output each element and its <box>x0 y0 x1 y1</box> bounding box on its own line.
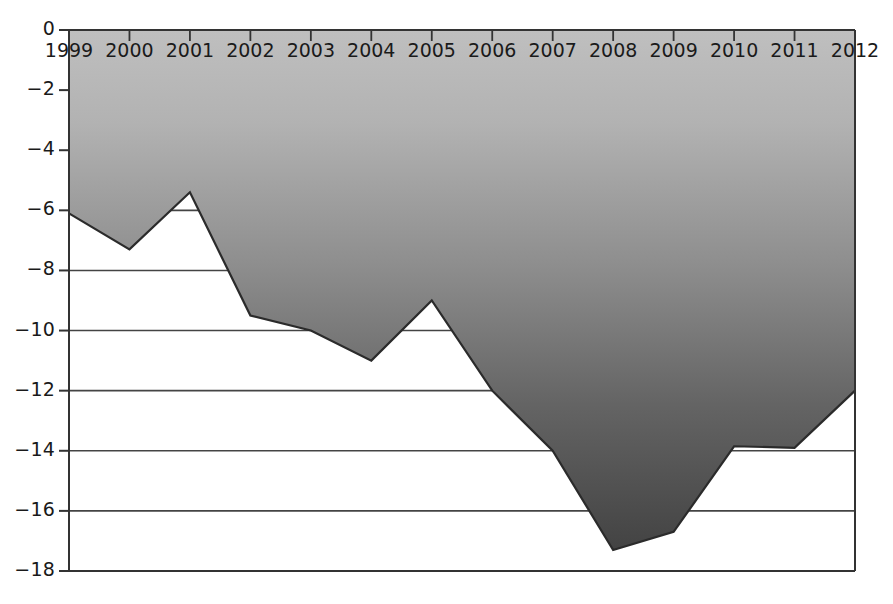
y-axis-tick-label: −10 <box>14 318 55 340</box>
y-axis-tick-label: −16 <box>14 498 55 520</box>
x-axis-tick-label: 2008 <box>583 39 643 61</box>
x-axis-tick-label: 2002 <box>220 39 280 61</box>
x-axis-tick-label: 2006 <box>462 39 522 61</box>
y-axis-tick-label: 0 <box>43 17 55 39</box>
x-axis-tick-label: 2001 <box>160 39 220 61</box>
y-axis-tick-label: −4 <box>27 137 55 159</box>
x-axis-tick-label: 2010 <box>704 39 764 61</box>
x-axis-tick-label: 2011 <box>765 39 825 61</box>
area-chart <box>0 0 893 604</box>
x-axis-tick-label: 2009 <box>644 39 704 61</box>
area-fill <box>69 30 855 550</box>
x-axis-tick-label: 2012 <box>825 39 885 61</box>
y-axis-tick-label: −8 <box>27 257 55 279</box>
chart-container: 0−2−4−6−8−10−12−14−16−18 199920002001200… <box>0 0 893 604</box>
x-axis-tick-label: 2004 <box>341 39 401 61</box>
x-axis-tick-label: 2003 <box>281 39 341 61</box>
y-axis-tick-label: −6 <box>27 197 55 219</box>
y-axis-tick-label: −12 <box>14 378 55 400</box>
x-axis-tick-label: 1999 <box>39 39 99 61</box>
y-axis-tick-label: −2 <box>27 77 55 99</box>
y-axis-tick-label: −14 <box>14 438 55 460</box>
x-axis-tick-label: 2007 <box>523 39 583 61</box>
y-axis-tick-label: −18 <box>14 558 55 580</box>
x-axis-tick-label: 2000 <box>99 39 159 61</box>
x-axis-tick-label: 2005 <box>402 39 462 61</box>
area-polygon <box>69 30 855 550</box>
